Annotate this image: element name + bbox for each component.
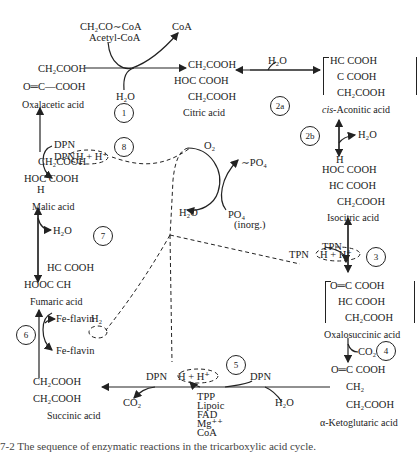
step-1-badge: 1 <box>114 103 134 123</box>
acetyl-coa-label: Acetyl-CoA <box>89 33 140 44</box>
dpnh-step5: DPN <box>146 372 167 383</box>
oxalosuccinic-line2: HC COOH <box>338 297 385 308</box>
oxalacetic-name: Oxalacetic acid <box>22 100 84 110</box>
isocitric-line2: HC COOH <box>329 181 376 192</box>
co2-step5: CO₂ <box>123 398 141 409</box>
oxalacetic-line1: CH₂COOH <box>38 64 86 75</box>
tpnh-step3: TPN <box>289 250 309 261</box>
malic-line3: H <box>37 185 45 196</box>
cis-prefix: cis <box>322 104 333 115</box>
isocitric-line3: CH₂COOH <box>337 197 385 208</box>
malic-name: Malic acid <box>32 202 74 212</box>
oxalosuccinic-line3: CH₂COOH <box>345 313 393 324</box>
isocitric-name: Isocitric acid <box>327 213 379 223</box>
h-pair-step8: H + H⁺ <box>76 152 108 163</box>
aconitic-suffix: -Aconitic acid <box>333 104 390 115</box>
fumaric-line1: HC COOH <box>47 263 94 274</box>
ketoglutaric-line2: CH₂ <box>346 382 364 393</box>
oxalosuccinic-line1: O═C COOH <box>330 281 384 292</box>
ketoglutaric-line1: O═C COOH <box>331 365 385 376</box>
citric-line1: CH₂COOH <box>188 60 236 71</box>
oxalacetic-line2: O═C—COOH <box>23 82 85 93</box>
fumaric-name: Fumaric acid <box>30 297 82 307</box>
coa-label: CoA <box>172 22 192 33</box>
citric-line2: HOC COOH <box>174 76 229 87</box>
ketoglutaric-name: α-Ketoglutaric acid <box>320 418 398 428</box>
step-6-badge: 6 <box>16 325 36 345</box>
succinic-line2: CH₂COOH <box>33 394 81 405</box>
cis-aconitic-line1: HC COOH <box>330 56 377 67</box>
inorganic-label: (inorg.) <box>234 220 266 231</box>
h-pair-step5: H + H⁺ <box>178 372 210 383</box>
h2o-step2b: H₂O <box>358 130 377 141</box>
fumaric-line2: HOOC CH <box>24 280 71 291</box>
malic-line2: HOC COOH <box>24 174 79 185</box>
ketoglutaric-line3: CH₂COOH <box>346 400 394 411</box>
step-8-badge: 8 <box>114 137 134 157</box>
step-4-badge: 4 <box>376 341 396 361</box>
cis-aconitic-name: cis-Aconitic acid <box>322 105 390 115</box>
oxalosuccinic-name: Oxalosuccinic acid <box>324 330 400 340</box>
step-3-badge: 3 <box>366 247 386 267</box>
h2o-step7: H₂O <box>53 226 72 237</box>
cis-aconitic-line2: C COOH <box>337 72 376 83</box>
co2-step4: CO₂ <box>358 347 376 358</box>
fe-flavin-h2: Fe-flavin <box>56 314 95 325</box>
high-energy-po4: ∼PO₄ <box>241 158 267 169</box>
cis-aconitic-line3: CH₂COOH <box>337 88 385 99</box>
citric-name: Citric acid <box>183 108 225 118</box>
succinic-name: Succinic acid <box>47 411 101 421</box>
h2-step6: H₂ <box>91 314 102 325</box>
isocitric-line1: HOC COOH <box>322 165 377 176</box>
dpn-step5: DPN <box>250 372 271 383</box>
h2o-step1: H₂O <box>116 92 135 103</box>
dpn-step8: DPN <box>54 140 75 151</box>
o2-label: O₂ <box>204 141 215 152</box>
dpnh-step8: DPN <box>54 152 75 163</box>
step-7-badge: 7 <box>93 226 113 246</box>
acetyl-coa-formula: CH₂CO∼CoA <box>80 22 141 33</box>
succinic-line1: CH₂COOH <box>33 377 81 388</box>
cofactor-coa: CoA <box>197 428 217 439</box>
citric-line3: CH₂COOH <box>188 92 236 103</box>
h2o-respiration: H₂O <box>179 208 198 219</box>
figure-caption: 7-2 The sequence of enzymatic reactions … <box>0 440 415 453</box>
h-pair-step3: H + H⁺ <box>320 250 352 261</box>
step-2b-badge: 2b <box>300 126 320 146</box>
fe-flavin: Fe-flavin <box>56 346 95 357</box>
step-5-badge: 5 <box>226 355 246 375</box>
h2o-step5: H₂O <box>275 398 294 409</box>
step-2a-badge: 2a <box>270 96 290 116</box>
h2o-step2a: H₂O <box>268 56 287 67</box>
